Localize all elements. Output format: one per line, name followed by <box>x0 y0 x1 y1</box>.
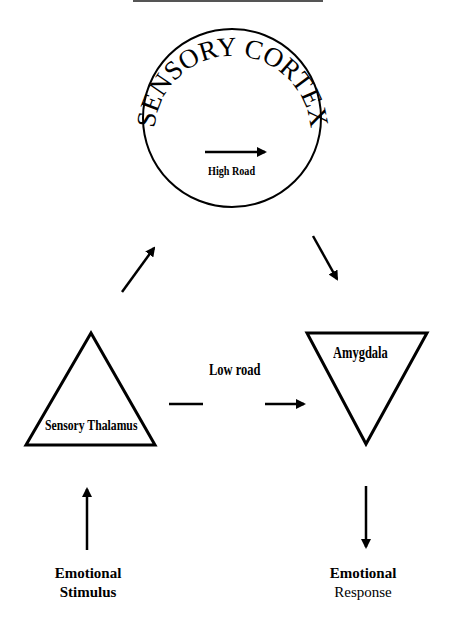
high-road-label: High Road <box>208 163 255 179</box>
emotional-stimulus-line1: Emotional <box>47 564 129 583</box>
diagram-canvas: SENSORY CORTEX <box>0 0 452 637</box>
sensory-thalamus-label: Sensory Thalamus <box>45 417 137 434</box>
emotional-stimulus-label: Emotional Stimulus <box>47 564 129 602</box>
low-road-label: Low road <box>209 361 260 379</box>
sensory-cortex-label: SENSORY CORTEX <box>131 31 335 130</box>
emotional-stimulus-line2: Stimulus <box>47 583 129 602</box>
thalamus-to-cortex-arrow-icon <box>122 248 154 292</box>
cortex-to-amygdala-arrow-icon <box>313 236 337 279</box>
emotional-response-line1: Emotional <box>322 564 404 583</box>
emotional-response-line2: Response <box>322 583 404 602</box>
amygdala-label: Amygdala <box>333 344 388 362</box>
emotional-response-label: Emotional Response <box>322 564 404 602</box>
